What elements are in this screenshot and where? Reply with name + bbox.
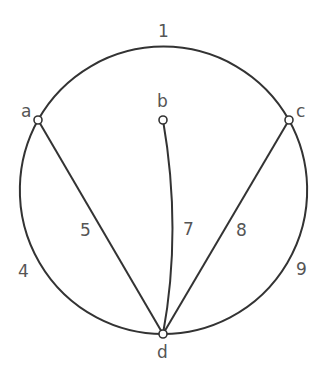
node-label-c: c xyxy=(296,101,305,121)
edge-label-7: 7 xyxy=(183,219,194,239)
edge-5 xyxy=(38,120,163,334)
node-d xyxy=(159,330,167,338)
edge-4 xyxy=(20,120,163,334)
edge-label-8: 8 xyxy=(236,220,247,240)
node-c xyxy=(285,116,293,124)
edge-label-4: 4 xyxy=(18,261,29,281)
edge-8 xyxy=(163,120,289,334)
edge-label-1: 1 xyxy=(158,21,169,41)
edge-label-5: 5 xyxy=(80,220,91,240)
node-a xyxy=(34,116,42,124)
node-label-a: a xyxy=(21,101,31,121)
node-label-d: d xyxy=(157,342,168,362)
node-label-b: b xyxy=(157,91,168,111)
graph-diagram: a b c d 1 4 5 7 8 9 xyxy=(0,0,332,369)
node-b xyxy=(159,116,167,124)
edge-label-9: 9 xyxy=(296,259,307,279)
edge-7 xyxy=(163,120,173,334)
